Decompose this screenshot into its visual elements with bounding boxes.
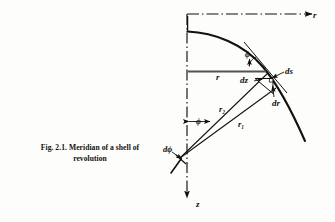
figure-caption: Fig. 2.1. Meridian of a shell of revolut… <box>20 142 160 164</box>
radius-r1-line <box>180 88 276 158</box>
phi-tangent-label: ϕ <box>245 50 250 59</box>
phi-axis-label: ϕ <box>196 117 201 126</box>
caption-line-2: revolution <box>20 153 160 164</box>
z-axis-label: z <box>196 200 200 209</box>
figure-shell-meridian: r z r ds dz dr r₂ r₁ ϕ ϕ dϕ Fig. 2.1. Me… <box>0 0 335 222</box>
ds-label: ds <box>285 67 293 76</box>
r-axis-label: r <box>313 11 317 20</box>
dphi-tail <box>171 159 181 173</box>
caption-line-1: Fig. 2.1. Meridian of a shell of <box>20 142 160 153</box>
radius-r2-line <box>180 73 268 158</box>
r2-label: r₂ <box>219 105 225 114</box>
dz-label: dz <box>240 76 248 85</box>
differential-triangle <box>255 79 273 94</box>
meridian-curve <box>188 32 306 142</box>
radius-r-label: r <box>216 73 220 82</box>
diagram-canvas <box>0 0 335 222</box>
r1-label: r₁ <box>238 120 244 129</box>
dr-label: dr <box>272 99 280 108</box>
dphi-label: dϕ <box>163 145 172 154</box>
ds-leader <box>272 72 284 78</box>
